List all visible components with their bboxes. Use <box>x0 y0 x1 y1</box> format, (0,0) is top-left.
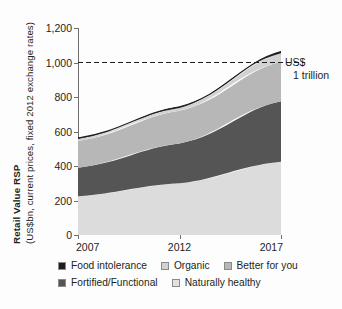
legend-item-label: Organic <box>174 261 210 271</box>
y-axis-tick-label: 800 <box>54 92 72 103</box>
chart-legend: Food intolerance Organic Better for you … <box>58 261 338 295</box>
legend-item-fortified-functional[interactable]: Fortified/Functional <box>58 278 158 288</box>
y-axis-tick-label: 200 <box>54 195 72 206</box>
x-axis-tick <box>78 235 79 239</box>
legend-row-2: Fortified/Functional Naturally healthy <box>58 278 338 288</box>
legend-item-label: Naturally healthy <box>185 278 261 288</box>
legend-item-better-for-you[interactable]: Better for you <box>224 261 298 271</box>
y-axis-tick-label: 1,000 <box>46 57 72 68</box>
area-series-group <box>78 28 281 235</box>
reference-line-label-line1: US$ <box>285 56 329 69</box>
legend-item-label: Fortified/Functional <box>71 278 158 288</box>
x-axis-tick-label: 2007 <box>76 242 99 253</box>
legend-item-organic[interactable]: Organic <box>161 261 210 271</box>
y-axis-title-main: Retail Value RSP <box>11 165 22 244</box>
y-axis-title: Retail Value RSP (US$bn, current prices,… <box>0 0 38 248</box>
y-axis-tick-label: 400 <box>54 161 72 172</box>
reference-line-annotation: US$ 1 trillion <box>285 56 329 82</box>
x-axis-tick-label: 2012 <box>168 242 191 253</box>
x-axis-tick <box>281 235 282 239</box>
y-axis-tick-label: 1,200 <box>46 23 72 34</box>
stacked-area-chart: Retail Value RSP (US$bn, current prices,… <box>0 0 342 309</box>
plot-area: 02004006008001,0001,200 200720122017 <box>78 28 281 235</box>
legend-row-1: Food intolerance Organic Better for you <box>58 261 338 271</box>
legend-item-naturally-healthy[interactable]: Naturally healthy <box>172 278 261 288</box>
legend-swatch-icon <box>172 279 180 287</box>
legend-swatch-icon <box>161 262 169 270</box>
y-axis-title-sub: (US$bn, current prices, fixed 2012 excha… <box>24 22 35 244</box>
legend-swatch-icon <box>58 279 66 287</box>
reference-line-label-line2: 1 trillion <box>285 69 329 82</box>
legend-swatch-icon <box>224 262 232 270</box>
x-axis-tick <box>180 235 181 239</box>
legend-item-food-intolerance[interactable]: Food intolerance <box>58 261 147 271</box>
y-axis-tick-label: 600 <box>54 126 72 137</box>
legend-item-label: Food intolerance <box>71 261 147 271</box>
y-axis-tick-label: 0 <box>66 230 72 241</box>
legend-swatch-icon <box>58 262 66 270</box>
legend-item-label: Better for you <box>237 261 298 271</box>
x-axis-tick-label: 2017 <box>260 242 283 253</box>
